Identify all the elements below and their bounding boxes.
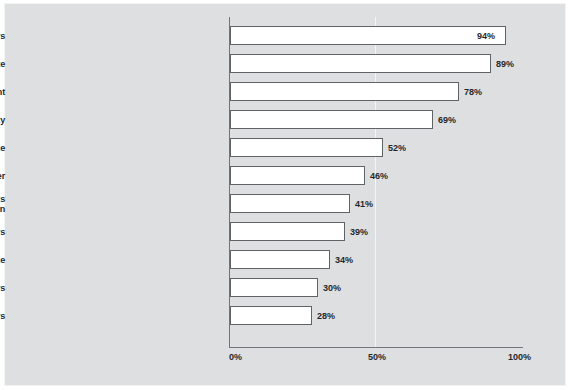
bar-category-label: Can name current U.S. secretary of state [0, 255, 5, 265]
bar-value-label: 78% [464, 87, 482, 97]
bar-value-label: 94% [477, 31, 495, 41]
bar-value-label: 41% [355, 199, 373, 209]
bar-category-label: Can name vice president [0, 87, 5, 97]
bar-category-label: Know there are two U.S. senators per sta… [0, 143, 5, 153]
bar-value-label: 39% [350, 227, 368, 237]
bar-rect[interactable] [230, 82, 459, 101]
bar-value-label: 28% [317, 311, 335, 321]
bar-rect[interactable] [230, 110, 433, 129]
bar-category-label: Know which party has U.S. House majority [0, 115, 5, 125]
bar-category-label: Know president’s term is 4 years [0, 31, 5, 41]
bar-value-label: 89% [496, 59, 514, 69]
bar-rect[interactable] [230, 166, 365, 185]
bar-category-label: Aware Bill of Rights is first ten amendm… [0, 194, 5, 214]
bar-category-label: Can name governor of home state [0, 59, 5, 69]
x-axis-tick-100: 100% [508, 352, 531, 362]
bar-category-label: Can name both of their U.S. senators [0, 227, 5, 237]
bar-rect[interactable] [230, 250, 330, 269]
x-axis-tick-0: 0% [229, 352, 242, 362]
bar-value-label: 69% [438, 115, 456, 125]
bar-rect[interactable] [230, 306, 312, 325]
bar-rect[interactable] [230, 194, 350, 213]
bar-value-label: 30% [323, 283, 341, 293]
bar-category-label: Know term of U.S. House member is 2 year… [0, 283, 5, 293]
bar-rect[interactable] [230, 54, 491, 73]
bar-value-label: 34% [335, 255, 353, 265]
bar-category-label: Can name their Congress member [0, 171, 5, 181]
bar-rect[interactable] [230, 278, 318, 297]
bar-value-label: 46% [370, 171, 388, 181]
bar-value-label: 52% [388, 143, 406, 153]
value-axis-line [229, 347, 523, 348]
x-axis-tick-50: 50% [368, 352, 386, 362]
bar-chart-figure: Know president’s term is 4 years 94% Can… [4, 3, 566, 386]
bar-rect[interactable] [230, 222, 345, 241]
bar-rect[interactable] [230, 138, 383, 157]
bar-rect[interactable] [230, 26, 506, 45]
bar-category-label: Can name one of their state senators [0, 311, 5, 321]
plot-area: Know president’s term is 4 years 94% Can… [5, 4, 567, 387]
